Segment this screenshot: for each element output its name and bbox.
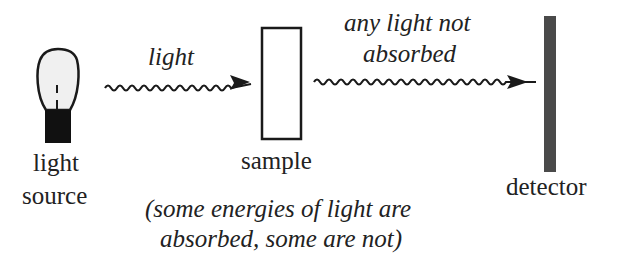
incoming-light-label: light <box>148 44 194 69</box>
outgoing-light-label-line1: any light not <box>344 10 470 35</box>
caption-line2: absorbed, some are not) <box>160 226 402 251</box>
light-source-label-line2: source <box>22 183 87 208</box>
outgoing-light-arrow <box>314 75 536 89</box>
light-source-label-line1: light <box>33 150 79 175</box>
sample-label: sample <box>241 148 312 173</box>
sample-cuvette <box>262 28 301 139</box>
caption-line1: (some energies of light are <box>145 196 411 221</box>
incoming-light-arrow <box>105 75 251 91</box>
light-bulb-icon <box>38 49 79 143</box>
detector-label: detector <box>506 174 587 199</box>
detector-plate <box>544 16 556 172</box>
outgoing-light-label-line2: absorbed <box>363 41 456 66</box>
